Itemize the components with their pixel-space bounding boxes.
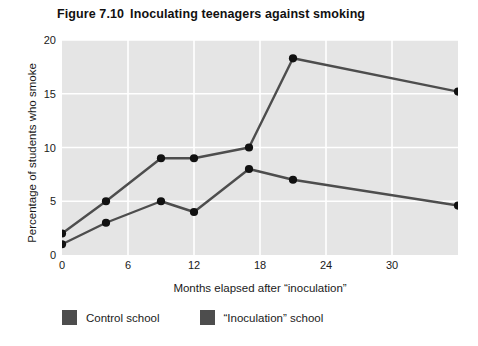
plot-area [62, 40, 458, 255]
figure-title-text: Inoculating teenagers against smoking [130, 7, 365, 21]
figure-container: Figure 7.10Inoculating teenagers against… [0, 0, 478, 346]
y-axis-tick-label: 5 [4, 195, 56, 207]
data-point-marker [157, 154, 165, 162]
x-axis-tick-label: 6 [125, 259, 131, 271]
data-point-marker [102, 197, 110, 205]
x-axis-tick-label: 18 [254, 259, 266, 271]
legend-swatch-icon [62, 310, 77, 325]
legend-label: “Inoculation” school [224, 312, 324, 324]
figure-number: Figure 7.10 [57, 7, 124, 21]
data-point-marker [454, 201, 458, 209]
y-axis-tick-label: 20 [4, 34, 56, 46]
y-axis-tick-label: 0 [4, 249, 56, 261]
y-axis-tick-label: 15 [4, 88, 56, 100]
x-axis-tick-label: 0 [59, 259, 65, 271]
data-point-marker [102, 219, 110, 227]
x-axis-tick-labels: 0612182430 [62, 259, 458, 275]
y-axis-tick-labels: 05101520 [0, 40, 56, 255]
data-point-marker [190, 154, 198, 162]
legend-swatch-icon [200, 310, 215, 325]
x-axis-tick-label: 30 [386, 259, 398, 271]
plot-svg [62, 40, 458, 255]
legend-item-control-school: Control school [62, 310, 160, 325]
x-axis-tick-label: 24 [320, 259, 332, 271]
x-axis-tick-label: 12 [188, 259, 200, 271]
data-point-marker [289, 54, 297, 62]
legend: Control school “Inoculation” school [62, 310, 323, 325]
data-point-marker [289, 176, 297, 184]
data-point-marker [190, 208, 198, 216]
legend-item-inoculation-school: “Inoculation” school [200, 310, 324, 325]
data-point-marker [245, 143, 253, 151]
data-point-marker [157, 197, 165, 205]
y-axis-tick-label: 10 [4, 142, 56, 154]
data-point-marker [245, 165, 253, 173]
chart-title: Figure 7.10Inoculating teenagers against… [57, 7, 365, 21]
gridlines [62, 40, 458, 255]
x-axis-title: Months elapsed after “inoculation” [62, 282, 458, 294]
legend-label: Control school [86, 312, 160, 324]
